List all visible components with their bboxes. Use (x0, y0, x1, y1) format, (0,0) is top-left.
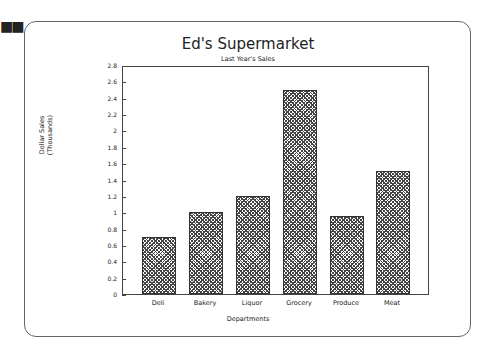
y-tick-label: 2 (97, 127, 117, 134)
y-tick-label: 1 (97, 209, 117, 216)
x-tick-label: Produce (321, 299, 371, 307)
x-tick-label: Deli (133, 299, 183, 307)
y-tick-label: 0.4 (97, 258, 117, 265)
y-tick-label: 2.4 (97, 95, 117, 102)
x-tick-label: Meat (367, 299, 417, 307)
plot-area (122, 66, 429, 295)
y-tick-label: 2.2 (97, 111, 117, 118)
y-tick-label: 0.8 (97, 226, 117, 233)
window-control-dots: ■■ (0, 18, 22, 34)
x-tick-label: Liquor (227, 299, 277, 307)
x-axis-title: Departments (0, 315, 496, 323)
x-tick-label: Bakery (180, 299, 230, 307)
bar-bakery (189, 212, 223, 294)
y-tick-label: 1.8 (97, 144, 117, 151)
bar-liquor (236, 196, 270, 294)
y-tick-label: 2.8 (97, 62, 117, 69)
y-tick-label: 2.6 (97, 78, 117, 85)
bar-grocery (283, 90, 317, 294)
y-tick-label: 0.6 (97, 242, 117, 249)
bar-meat (376, 171, 410, 294)
chart-title: Ed's Supermarket (0, 35, 496, 53)
y-tick-label: 1.6 (97, 160, 117, 167)
y-tick-label: 1.2 (97, 193, 117, 200)
y-tick-label: 1.4 (97, 177, 117, 184)
x-tick-label: Grocery (274, 299, 324, 307)
bar-deli (142, 237, 176, 294)
chart-subtitle: Last Year's Sales (0, 55, 496, 63)
y-axis-title-line1: Dollar Sales (38, 90, 46, 180)
bar-produce (330, 216, 364, 294)
y-axis-title-line2: (Thousands) (46, 90, 54, 180)
y-tick-label: 0 (97, 291, 117, 298)
y-tick-label: 0.2 (97, 275, 117, 282)
y-axis-title: Dollar Sales (Thousands) (38, 90, 54, 180)
y-tick-mark (122, 295, 126, 296)
